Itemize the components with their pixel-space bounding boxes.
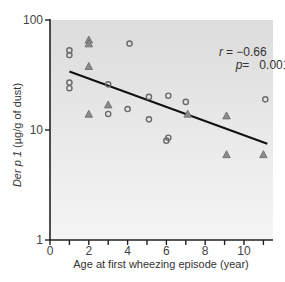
p-value: = 0.001: [242, 58, 285, 72]
x-tick-label: 4: [124, 244, 131, 258]
scatter-chart: 0246810110100 Age at first wheezing epis…: [0, 0, 285, 282]
r-value: = −0.66: [226, 45, 267, 59]
r-annotation: r= −0.66: [219, 45, 267, 59]
x-tick-label: 10: [237, 244, 251, 258]
y-tick-label: 10: [30, 123, 44, 137]
x-tick-label: 0: [47, 244, 54, 258]
y-axis-title-italic: Der p 1: [11, 151, 23, 187]
x-tick-label: 6: [163, 244, 170, 258]
p-annotation: p= 0.001: [219, 58, 285, 72]
x-axis-title: Age at first wheezing episode (year): [73, 258, 248, 270]
y-axis-title: Der p 1 (µg/g of dust): [11, 83, 23, 187]
x-tick-label: 2: [85, 244, 92, 258]
y-tick-label: 100: [23, 13, 43, 27]
x-tick-label: 8: [202, 244, 209, 258]
y-tick-label: 1: [36, 233, 43, 247]
y-axis-title-units: (µg/g of dust): [11, 83, 23, 151]
